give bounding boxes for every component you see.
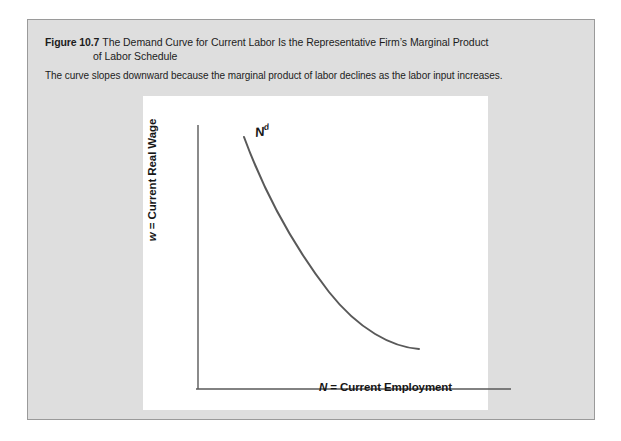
figure-subtitle: The curve slopes downward because the ma…: [45, 69, 585, 82]
y-axis-text: = Current Real Wage: [146, 119, 158, 233]
x-axis-text: = Current Employment: [327, 381, 452, 393]
figure-card: Figure 10.7 The Demand Curve for Current…: [27, 19, 595, 420]
plot-panel: Nd w = Current Real Wage N = Current Emp…: [143, 96, 488, 410]
labor-demand-curve: [244, 137, 419, 349]
x-axis-symbol: N: [319, 381, 327, 393]
figure-title-text: The Demand Curve for Current Labor Is th…: [102, 36, 488, 48]
y-axis-symbol: w: [146, 232, 158, 241]
curve-label-superscript: d: [263, 122, 270, 133]
x-axis-label: N = Current Employment: [319, 381, 452, 393]
figure-number: Figure 10.7: [45, 36, 99, 48]
chart-curve-layer: [143, 96, 488, 410]
y-axis-label: w = Current Real Wage: [146, 75, 158, 285]
figure-title-line-1: Figure 10.7 The Demand Curve for Current…: [45, 35, 575, 49]
curve-label-nd: Nd: [254, 123, 271, 140]
figure-caption: Figure 10.7 The Demand Curve for Current…: [45, 35, 575, 63]
figure-title-line-2: of Labor Schedule: [45, 49, 575, 63]
